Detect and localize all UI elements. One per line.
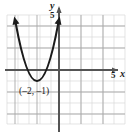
coordinate-plane <box>0 0 131 135</box>
y-axis-tick-label-5: 5 <box>50 11 55 20</box>
x-axis-label: x <box>120 69 125 79</box>
x-axis-tick-label-5: 5 <box>111 71 116 80</box>
parabola-graph-figure: y 5 5 x (–2, –1) <box>0 0 131 135</box>
x-axis <box>5 67 118 72</box>
vertex-coordinate-label: (–2, –1) <box>19 87 49 97</box>
